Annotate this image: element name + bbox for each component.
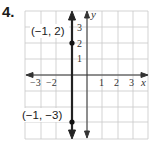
point-neg1-neg3 <box>69 119 74 124</box>
tick-x-1: 1 <box>99 77 104 88</box>
tick-x-3: 3 <box>129 77 134 88</box>
tick-y-1: 1 <box>77 53 82 64</box>
point-label-neg1-neg3: (−1, −3) <box>22 109 62 121</box>
y-axis-label: y <box>90 8 96 20</box>
tick-y-3: 3 <box>77 22 82 33</box>
tick-x-neg2: −2 <box>46 77 57 88</box>
point-neg1-2 <box>69 40 74 45</box>
x-axis-label: x <box>140 76 146 88</box>
tick-x-neg3: −3 <box>30 77 41 88</box>
tick-x-2: 2 <box>114 77 119 88</box>
tick-y-2: 2 <box>77 38 82 49</box>
point-label-neg1-2: (−1, 2) <box>31 25 65 37</box>
coordinate-graph: −3 −2 1 2 3 x 3 2 1 y (−1, 2) (−1, −3) <box>0 0 157 145</box>
